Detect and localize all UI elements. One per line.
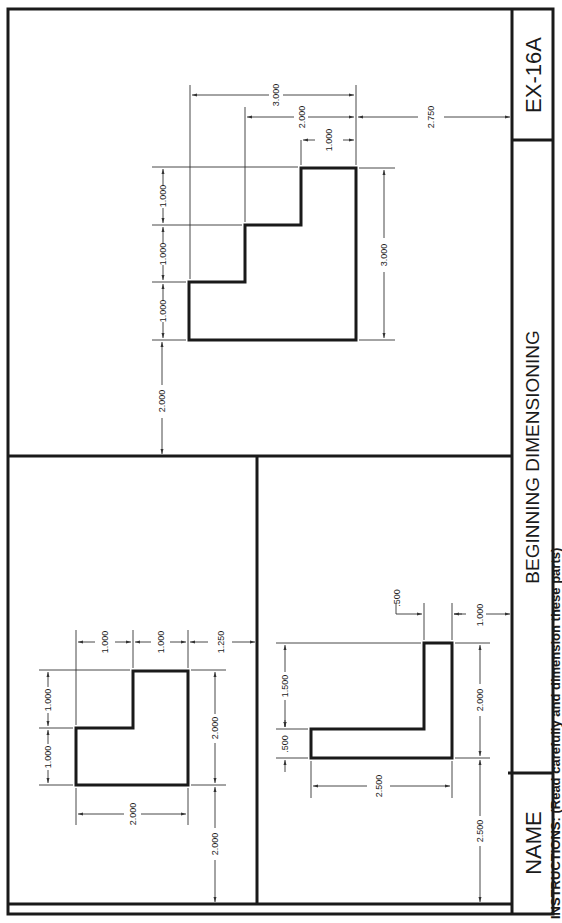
drawing-number: EX-16A [521,37,546,113]
dim-right-height: 2.000 [210,717,220,740]
dim-thickness-left: .500 [280,735,290,753]
dim-flange-thickness: .500 [392,589,402,607]
instructions-text: INSTRUCTIONS: (Read carefully and dimens… [548,548,562,919]
dim-upper-length: 1.500 [280,675,290,698]
drawing-sheet: EX-16A BEGINNING DIMENSIONING NAME INSTR… [0,0,562,923]
l-part-angle-outline [311,643,452,758]
dim-bottom-offset: 2.000 [210,833,220,856]
dim-bottom-width: 2.000 [128,803,138,826]
dim-step-3: 1.000 [158,300,168,323]
dim-baseline-1000: 1.000 [324,129,334,152]
dim-baseline-3000: 3.000 [271,84,281,107]
stepped-part-outline [189,168,356,340]
dim-right-height-angle: 2.000 [475,689,485,712]
dim-step-1: 1.000 [158,185,168,208]
l-part-square-drawing: 1.000 1.000 1.250 1.000 1.000 2.000 2.00… [39,630,255,902]
dim-left-step-1: 1.000 [43,689,53,712]
stepped-part-drawing: 1.000 1.000 1.000 2.000 3.000 3.000 2.00… [152,84,510,454]
dim-offset-2750: 2.750 [426,106,436,129]
drawing-title: BEGINNING DIMENSIONING [522,330,543,583]
dim-flange-offset: 1.000 [475,604,485,627]
sheet-border [8,9,553,914]
dim-top-step-2: 1.000 [156,631,166,654]
l-part-angle-drawing: 1.500 .500 .500 1.000 2.500 2.000 2.500 [276,589,510,902]
dim-step-2: 1.000 [158,243,168,266]
dim-offset-2000: 2.000 [157,390,167,413]
dim-overall-height: 3.000 [379,244,389,267]
dim-bottom-width-angle: 2.500 [374,775,384,798]
dim-baseline-2000: 2.000 [297,106,307,129]
dim-top-step-1: 1.000 [100,631,110,654]
name-label: NAME [521,811,546,875]
dim-left-step-2: 1.000 [43,746,53,769]
dim-bottom-offset-angle: 2.500 [475,820,485,843]
l-part-square-outline [76,671,188,785]
dim-top-offset: 1.250 [216,631,226,654]
